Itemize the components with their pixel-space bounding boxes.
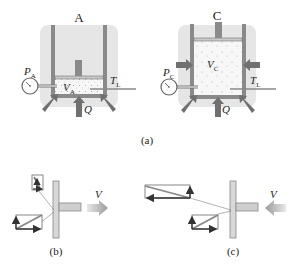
velocity-arrow-b [87,200,108,216]
panel-b-rod [59,203,81,211]
velocity-diagram-c-upper [145,185,190,198]
velocity-diagram-b-lower [16,215,42,229]
thermodynamics-figure: A PA VA TL Q C [0,0,294,264]
panel-b: V (b) [16,175,108,258]
heat-label-c: Q [222,103,230,115]
heat-label-a: Q [84,103,92,115]
panel-c: V (c) [145,181,286,258]
cylinder-a: A PA VA TL Q [22,10,136,117]
cylinder-a-label: A [74,10,84,25]
velocity-diagram-c-lower [192,215,218,229]
cylinder-c-right-wall [242,24,246,99]
velocity-diagram-b-upper [32,175,43,190]
cylinder-a-piston-rod [75,60,82,76]
velocity-label-c: V [270,188,278,200]
cylinder-a-piston [55,76,103,79]
panel-c-rod [236,203,258,211]
caption-c: (c) [227,245,240,258]
cylinder-a-right-wall [103,25,107,98]
panel-c-plate [230,181,236,238]
cylinder-c-label: C [213,8,222,23]
cylinder-c-piston-rod [215,22,222,38]
cylinder-c-piston [194,38,242,41]
cylinder-c: C PC VC TL Q [161,8,276,117]
velocity-label-b: V [95,188,103,200]
caption-b: (b) [50,245,63,258]
caption-a: (a) [141,134,154,147]
velocity-arrow-c [265,200,286,216]
